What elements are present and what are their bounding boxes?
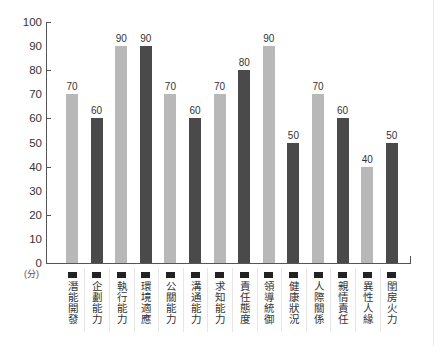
bar-value-label: 60 [328, 105, 358, 116]
category-text: 公關能力 [164, 281, 176, 325]
legend-square-icon [289, 272, 298, 278]
category-text: 異性人緣 [361, 281, 373, 325]
bar [91, 118, 103, 263]
legend-square-icon [264, 272, 273, 278]
legend-square-icon [215, 272, 224, 278]
bar [66, 94, 78, 263]
y-tick-label: 90 [2, 40, 42, 52]
bar [361, 167, 373, 263]
category-text: 領導統御 [263, 281, 275, 325]
bar [140, 46, 152, 263]
category-label: 親情責任 [331, 272, 355, 325]
legend-square-icon [363, 272, 372, 278]
bar-value-label: 50 [377, 130, 407, 141]
category-text: 責任態度 [238, 281, 250, 325]
y-tick-label: 30 [2, 185, 42, 197]
category-divider [109, 268, 110, 332]
category-divider [330, 268, 331, 332]
category-text: 潛能開發 [66, 281, 78, 325]
bar [164, 94, 176, 263]
category-divider [281, 268, 282, 332]
legend-square-icon [117, 272, 126, 278]
y-tick-label: 100 [2, 16, 42, 28]
legend-square-icon [191, 272, 200, 278]
category-label: 環境適應 [134, 272, 158, 325]
legend-square-icon [338, 272, 347, 278]
y-tick-label: 20 [2, 209, 42, 221]
category-divider [232, 268, 233, 332]
category-divider [207, 268, 208, 332]
bar-chart: 0102030405060708090100 (分) 7060909070607… [0, 0, 437, 346]
bar [189, 118, 201, 263]
bar [386, 143, 398, 264]
category-divider [134, 268, 135, 332]
category-divider [355, 268, 356, 332]
y-tick-label: 60 [2, 112, 42, 124]
y-tick-label: 70 [2, 88, 42, 100]
y-axis-unit: (分) [24, 267, 39, 280]
bar-value-label: 50 [278, 130, 308, 141]
category-divider [380, 268, 381, 332]
bar [214, 94, 226, 263]
category-text: 企劃能力 [91, 281, 103, 325]
category-label: 溝通能力 [183, 272, 207, 325]
category-label: 潛能開發 [60, 272, 84, 325]
category-divider [158, 268, 159, 332]
category-label: 健康狀況 [281, 272, 305, 325]
bar-value-label: 40 [352, 154, 382, 165]
bar [337, 118, 349, 263]
legend-square-icon [387, 272, 396, 278]
legend-square-icon [141, 272, 150, 278]
bar-value-label: 60 [82, 105, 112, 116]
bar-value-label: 70 [303, 81, 333, 92]
legend-square-icon [166, 272, 175, 278]
bar-value-label: 70 [57, 81, 87, 92]
bar [312, 94, 324, 263]
bar-value-label: 90 [131, 33, 161, 44]
category-label: 公關能力 [158, 272, 182, 325]
legend-square-icon [68, 272, 77, 278]
y-tick-label: 50 [2, 137, 42, 149]
category-text: 溝通能力 [189, 281, 201, 325]
category-label: 責任態度 [232, 272, 256, 325]
page-edge [433, 0, 434, 346]
bar-value-label: 90 [254, 33, 284, 44]
bar-value-label: 80 [229, 57, 259, 68]
bar-value-label: 70 [155, 81, 185, 92]
category-label: 人際關係 [306, 272, 330, 325]
category-label: 企劃能力 [85, 272, 109, 325]
legend-square-icon [240, 272, 249, 278]
bar [238, 70, 250, 263]
y-tick-label: 40 [2, 161, 42, 173]
legend-square-icon [92, 272, 101, 278]
x-axis-end-tick [410, 256, 411, 264]
y-tick-label: 10 [2, 233, 42, 245]
category-text: 健康狀況 [287, 281, 299, 325]
category-label: 領導統御 [257, 272, 281, 325]
category-text: 求知能力 [214, 281, 226, 325]
bar-value-label: 70 [205, 81, 235, 92]
y-axis [46, 22, 47, 263]
y-tick-label: 80 [2, 64, 42, 76]
category-divider [84, 268, 85, 332]
category-label: 異性人緣 [355, 272, 379, 325]
bar [115, 46, 127, 263]
x-axis [46, 263, 411, 264]
category-text: 親情責任 [337, 281, 349, 325]
bar [287, 143, 299, 264]
legend-square-icon [314, 272, 323, 278]
category-label: 閨房火力 [380, 272, 404, 325]
bar-value-label: 60 [180, 105, 210, 116]
category-label: 執行能力 [109, 272, 133, 325]
category-text: 閨房火力 [386, 281, 398, 325]
category-divider [306, 268, 307, 332]
category-text: 人際關係 [312, 281, 324, 325]
category-text: 執行能力 [115, 281, 127, 325]
category-divider [183, 268, 184, 332]
bar [263, 46, 275, 263]
category-label: 求知能力 [208, 272, 232, 325]
category-text: 環境適應 [140, 281, 152, 325]
category-divider [257, 268, 258, 332]
